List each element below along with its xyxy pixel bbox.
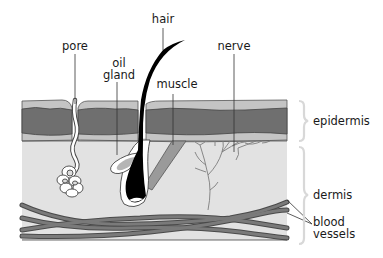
hair-label: hair xyxy=(152,13,174,25)
oil-gland-label-line2: gland xyxy=(103,69,135,81)
nerve-label: nerve xyxy=(218,40,251,52)
dermis-bracket xyxy=(299,147,308,244)
epidermis-bracket xyxy=(299,101,308,141)
dermis-label: dermis xyxy=(313,189,352,201)
blood-vessels-label-line2: vessels xyxy=(313,228,355,240)
epidermis-basal-layer xyxy=(146,108,287,135)
pore-label: pore xyxy=(62,40,88,52)
epidermis-label: epidermis xyxy=(313,115,370,127)
muscle-label: muscle xyxy=(156,78,197,90)
epidermis-basal-layer xyxy=(22,108,72,136)
epidermis-basal-layer xyxy=(78,108,138,135)
